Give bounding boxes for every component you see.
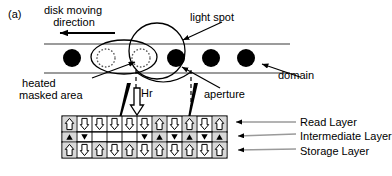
intermediate-layer-label: Intermediate Layer (300, 131, 392, 143)
leader-lines (92, 22, 300, 88)
domain-written (202, 49, 220, 67)
heated-masked-area-label: heated masked area (19, 78, 83, 102)
domain-written (63, 49, 81, 67)
light-spot-label: light spot (190, 12, 234, 24)
callout-intermediate-layer (238, 134, 296, 136)
domain-erased (132, 49, 150, 67)
leader-light-spot (183, 22, 222, 40)
aperture-to-grid-pointers (119, 83, 198, 118)
domain-erased (97, 49, 115, 67)
hr-label: Hr (141, 88, 153, 100)
tri-layer-stack (62, 116, 227, 158)
callout-storage-layer (238, 149, 296, 150)
storage-layer-label: Storage Layer (300, 146, 369, 158)
domain-written (237, 49, 255, 67)
read-layer-label: Read Layer (300, 117, 357, 129)
leader-aperture (182, 67, 220, 88)
disk-moving-direction-label: disk moving direction (44, 5, 102, 29)
domain-label: domain (278, 70, 314, 82)
panel-letter: (a) (8, 9, 21, 21)
aperture-label: aperture (204, 89, 245, 101)
leader-heated (92, 62, 135, 78)
layer-callouts (236, 122, 296, 150)
